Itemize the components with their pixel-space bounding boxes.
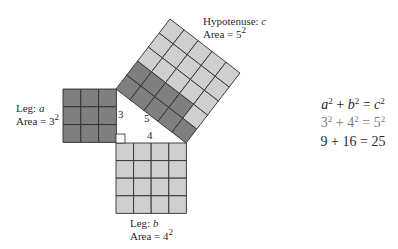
- grid-cell: [116, 196, 134, 214]
- grid-cell: [134, 143, 152, 161]
- leg-a-area: Area = 32: [16, 115, 59, 128]
- grid-cell: [63, 89, 81, 107]
- grid-cell: [134, 161, 152, 179]
- grid-cell: [151, 196, 169, 214]
- equation-substituted: 32 + 42 = 52: [310, 114, 396, 132]
- equation-evaluated: 9 + 16 = 25: [310, 133, 396, 151]
- grid-cell: [151, 143, 169, 161]
- grid-cell: [99, 89, 117, 107]
- grid-cell: [134, 178, 152, 196]
- leg-b-area: Area = 42: [130, 230, 173, 243]
- grid-cell: [151, 161, 169, 179]
- side-a-length: 3: [118, 108, 124, 120]
- right-angle-marker: [116, 134, 125, 143]
- grid-cell: [169, 161, 187, 179]
- side-c-length: 5: [144, 112, 150, 124]
- grid-cell: [134, 196, 152, 214]
- grid-cell: [169, 143, 187, 161]
- side-b-length: 4: [147, 129, 153, 141]
- grid-cell: [63, 107, 81, 125]
- equation-general: a2 + b2 = c2: [310, 96, 396, 114]
- grid-cell: [99, 107, 117, 125]
- grid-cell: [99, 125, 117, 143]
- grid-cell: [151, 178, 169, 196]
- hypotenuse-label: Hypotenuse: c Area = 52: [203, 15, 266, 41]
- leg-b-square: [116, 143, 186, 213]
- leg-b-label: Leg: b Area = 42: [130, 217, 173, 243]
- hypotenuse-title: Hypotenuse: c: [203, 15, 266, 28]
- leg-a-square: [63, 89, 116, 142]
- grid-cell: [63, 125, 81, 143]
- grid-cell: [81, 125, 99, 143]
- grid-cell: [116, 178, 134, 196]
- grid-cell: [81, 107, 99, 125]
- leg-b-title: Leg: b: [130, 217, 173, 230]
- grid-cell: [116, 143, 134, 161]
- leg-a-label: Leg: a Area = 32: [16, 102, 59, 128]
- leg-a-title: Leg: a: [16, 102, 59, 115]
- grid-cell: [169, 196, 187, 214]
- grid-cell: [116, 161, 134, 179]
- hypotenuse-area: Area = 52: [203, 28, 266, 41]
- grid-cell: [81, 89, 99, 107]
- grid-cell: [169, 178, 187, 196]
